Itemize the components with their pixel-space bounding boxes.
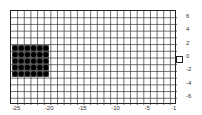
data-point	[31, 52, 36, 57]
data-point	[25, 65, 30, 70]
data-point	[25, 58, 30, 63]
data-point	[19, 52, 24, 57]
data-point	[19, 46, 24, 51]
data-point	[19, 58, 24, 63]
data-point	[37, 65, 42, 70]
data-point	[31, 65, 36, 70]
y-tick-label: -4	[186, 80, 191, 86]
data-point	[43, 52, 48, 57]
data-point	[12, 65, 17, 70]
data-point	[31, 58, 36, 63]
plot-area	[10, 10, 176, 104]
data-point	[31, 46, 36, 51]
data-point	[12, 71, 17, 76]
data-point	[19, 71, 24, 76]
data-point	[43, 46, 48, 51]
x-tick-label: -25	[12, 105, 21, 111]
x-tick-label: -15	[78, 105, 87, 111]
data-point	[31, 71, 36, 76]
data-point	[12, 46, 17, 51]
data-point	[43, 65, 48, 70]
data-point	[37, 58, 42, 63]
data-point	[25, 52, 30, 57]
y-tick-label: 0	[186, 53, 189, 59]
y-tick-label: -2	[186, 66, 191, 72]
x-tick-label: -10	[111, 105, 120, 111]
data-point	[43, 71, 48, 76]
data-point	[43, 58, 48, 63]
data-point	[37, 52, 42, 57]
y-tick-label: 6	[186, 13, 189, 19]
x-tick-label: -5	[144, 105, 149, 111]
grid-lines	[11, 11, 177, 105]
data-point	[25, 71, 30, 76]
y-zero-marker-box	[176, 56, 183, 63]
data-point	[25, 46, 30, 51]
data-point	[37, 46, 42, 51]
x-tick-label: -20	[45, 105, 54, 111]
y-tick-label: 4	[186, 26, 189, 32]
data-point	[12, 58, 17, 63]
x-tick-label: -1	[171, 105, 176, 111]
y-tick-label: 2	[186, 40, 189, 46]
data-point	[19, 65, 24, 70]
y-tick-label: -6	[186, 93, 191, 99]
data-point	[12, 52, 17, 57]
data-point	[37, 71, 42, 76]
